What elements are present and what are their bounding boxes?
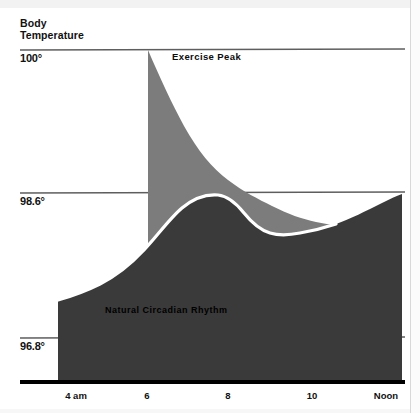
x-tick-label-10: 10	[307, 390, 318, 401]
x-axis-line	[20, 380, 405, 384]
y-axis-title: BodyTemperature	[20, 18, 84, 41]
page-edge-right	[410, 0, 420, 413]
x-tick-label-8: 8	[225, 390, 230, 401]
gridline-100	[20, 49, 405, 50]
annotation-exercise-peak: Exercise Peak	[172, 51, 241, 62]
x-tick-label-noon: Noon	[374, 390, 398, 401]
y-axis-title-line2: Temperature	[20, 29, 84, 41]
y-tick-label-96-8: 96.8°	[20, 340, 45, 352]
x-tick-label-4am: 4 am	[65, 390, 87, 401]
chart-figure: BodyTemperature 100° 98.6° 96.8° 4 am 6 …	[0, 0, 420, 413]
x-tick-label-6: 6	[144, 390, 149, 401]
y-tick-label-98-6: 98.6°	[20, 195, 45, 207]
y-tick-label-100: 100°	[20, 52, 42, 64]
y-axis-title-line1: Body	[20, 17, 47, 29]
circadian-rhythm-area	[58, 194, 402, 384]
annotation-natural-circadian-rhythm: Natural Circadian Rhythm	[105, 305, 228, 315]
